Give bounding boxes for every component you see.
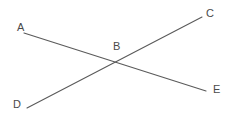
point-label-a: A (17, 22, 24, 33)
geometry-figure: A C B D E (0, 0, 233, 122)
point-label-b: B (113, 41, 120, 52)
point-label-c: C (206, 8, 214, 19)
geometry-canvas (0, 0, 233, 122)
point-label-d: D (13, 99, 21, 110)
line-segment-dc (27, 17, 202, 108)
point-label-e: E (213, 84, 220, 95)
